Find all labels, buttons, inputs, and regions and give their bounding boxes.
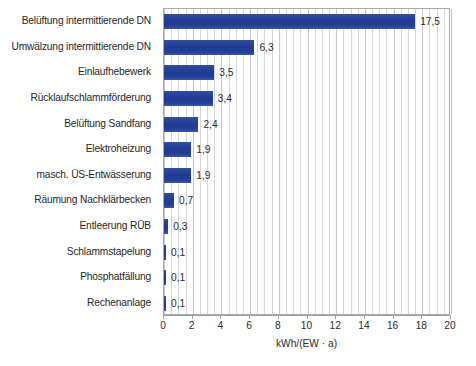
x-tick-label: 20 [435, 320, 465, 331]
category-label-column: Belüftung intermittierende DNUmwälzung i… [0, 8, 157, 315]
bar [164, 296, 166, 311]
x-tick-mark [307, 315, 308, 319]
bar [164, 219, 168, 234]
bar [164, 14, 415, 29]
x-tick-mark [192, 315, 193, 319]
category-label: Einlaufhebewerk [78, 59, 151, 84]
category-label: Entleerung RÜB [79, 213, 151, 238]
category-label: Rücklaufschlammförderung [31, 85, 151, 110]
x-tick-label: 6 [234, 320, 264, 331]
x-tick-label: 10 [292, 320, 322, 331]
bar [164, 245, 166, 260]
category-label: Umwälzung intermittierende DN [12, 34, 151, 59]
bar-value-label: 1,9 [196, 168, 210, 183]
x-tick-label: 18 [406, 320, 436, 331]
x-tick-label: 8 [263, 320, 293, 331]
x-tick-label: 4 [205, 320, 235, 331]
plot-area: 17,56,33,53,42,41,91,90,70,30,10,10,1 [163, 8, 450, 315]
bar-chart: Belüftung intermittierende DNUmwälzung i… [0, 0, 476, 366]
x-tick-mark [220, 315, 221, 319]
bar [164, 117, 198, 132]
x-tick-mark [364, 315, 365, 319]
bar-value-label: 3,5 [219, 65, 233, 80]
x-axis-title: kWh/(EW · a) [163, 338, 450, 349]
category-label: Belüftung Sandfang [64, 111, 151, 136]
category-label: Elektroheizung [86, 136, 151, 161]
x-tick-mark [278, 315, 279, 319]
bar [164, 168, 191, 183]
x-tick-mark [421, 315, 422, 319]
x-tick-label: 16 [378, 320, 408, 331]
bar-value-label: 0,1 [171, 245, 185, 260]
category-label: Räumung Nachklärbecken [34, 187, 151, 212]
bar-value-label: 6,3 [259, 40, 273, 55]
bar [164, 91, 213, 106]
x-tick-label: 2 [177, 320, 207, 331]
bars-layer: 17,56,33,53,42,41,91,90,70,30,10,10,1 [164, 9, 449, 314]
bar [164, 40, 254, 55]
bar [164, 142, 191, 157]
x-tick-label: 14 [349, 320, 379, 331]
category-label: Phosphatfällung [80, 264, 151, 289]
bar-value-label: 0,1 [171, 296, 185, 311]
bar-value-label: 17,5 [420, 14, 440, 29]
bar [164, 193, 174, 208]
bar-value-label: 1,9 [196, 142, 210, 157]
x-tick-label: 0 [148, 320, 178, 331]
bar-value-label: 0,3 [173, 219, 187, 234]
x-tick-mark [450, 315, 451, 319]
category-label: Schlammstapelung [67, 239, 151, 264]
category-label: Belüftung intermittierende DN [22, 8, 151, 33]
bar-value-label: 3,4 [218, 91, 232, 106]
x-tick-label: 12 [320, 320, 350, 331]
x-tick-mark [163, 315, 164, 319]
bar-value-label: 2,4 [203, 117, 217, 132]
bar [164, 270, 166, 285]
x-tick-mark [335, 315, 336, 319]
category-label: Rechenanlage [87, 290, 151, 315]
bar-value-label: 0,7 [179, 193, 193, 208]
x-tick-mark [249, 315, 250, 319]
bar-value-label: 0,1 [171, 270, 185, 285]
bar [164, 65, 214, 80]
gridline-major [451, 9, 452, 314]
x-tick-mark [393, 315, 394, 319]
category-label: masch. ÜS-Entwässerung [37, 162, 151, 187]
